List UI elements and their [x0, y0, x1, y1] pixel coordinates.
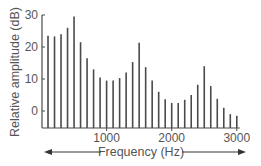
y-tick-label: 30 — [25, 8, 39, 22]
spectrum-chart: 0102030 100020003000 Relative amplitude … — [0, 0, 261, 166]
frequency-arrow-right — [182, 149, 246, 155]
x-tick-label: 3000 — [223, 131, 250, 145]
harmonic-spikes — [48, 17, 237, 128]
y-tick-label: 0 — [31, 104, 38, 118]
y-tick-label: 10 — [25, 72, 39, 86]
y-tick-label: 20 — [25, 40, 39, 54]
y-axis-title: Relative amplitude (dB) — [8, 7, 22, 137]
x-axis-title: Frequency (Hz) — [98, 145, 184, 159]
x-tick-label: 2000 — [158, 131, 185, 145]
x-axis: 100020003000 — [42, 128, 250, 145]
y-axis: 0102030 — [25, 8, 45, 128]
x-tick-label: 1000 — [93, 131, 120, 145]
frequency-arrow-left — [44, 149, 101, 155]
